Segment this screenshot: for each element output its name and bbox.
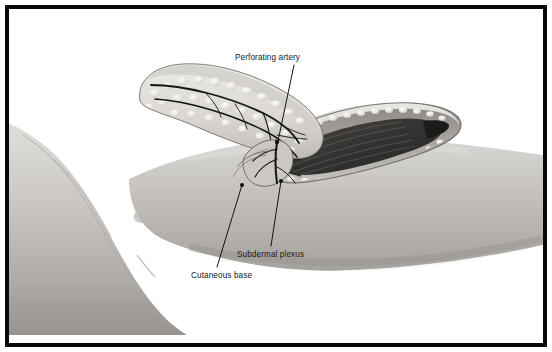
- illustration-plate: Perforating artery Subdermal plexus Cuta…: [9, 9, 543, 343]
- label-cutaneous-base: Cutaneous base: [191, 271, 252, 280]
- figure-container: Perforating artery Subdermal plexus Cuta…: [0, 0, 552, 352]
- label-perforating-artery: Perforating artery: [235, 53, 300, 62]
- endpoint-cutaneous-base: [240, 183, 244, 187]
- endpoint-subdermal-plexus: [279, 179, 283, 183]
- figure-frame: Perforating artery Subdermal plexus Cuta…: [5, 5, 547, 347]
- label-subdermal-plexus: Subdermal plexus: [237, 250, 304, 259]
